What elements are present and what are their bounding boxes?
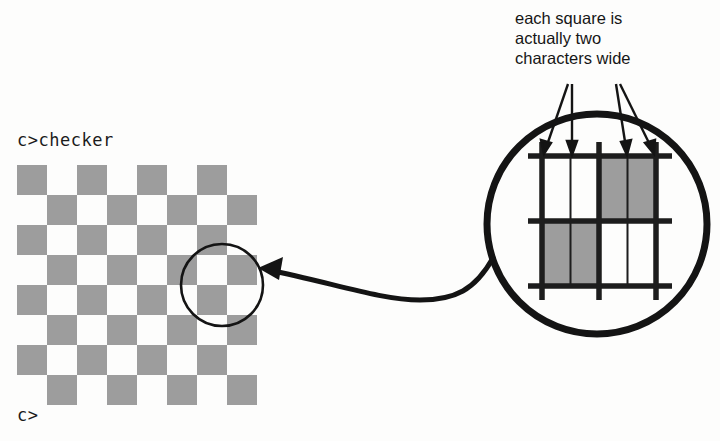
diagram-overlay <box>0 0 720 441</box>
caption-arrow-2-head <box>567 141 577 155</box>
checker-diagram-figure: c>checker c> each square is actually two… <box>0 0 720 441</box>
magnifier-connector-curve <box>268 258 493 300</box>
caption-arrow-4-head <box>645 140 655 154</box>
board-region-highlight-circle <box>181 244 263 326</box>
caption-arrow-3-head <box>621 140 631 155</box>
magnified-detail <box>528 142 672 300</box>
caption-arrow-1-head <box>541 140 551 154</box>
